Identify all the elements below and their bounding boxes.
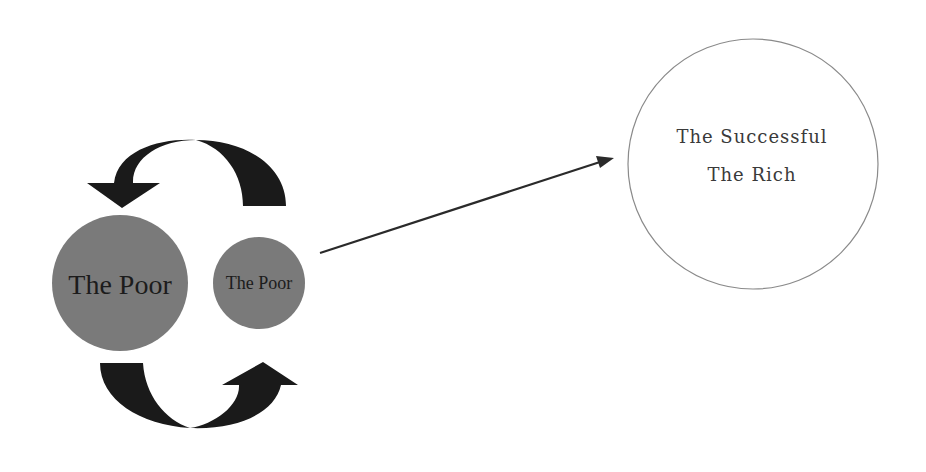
poor-large-label: The Poor [68,269,172,300]
bottom-cycle-arrow [100,362,298,428]
rich-label-line1: The Successful [676,126,827,147]
rich-label-line2: The Rich [708,164,797,185]
top-cycle-arrow [87,140,286,208]
poor-to-rich-diagram: The Poor The Poor The Successful The Ric… [0,0,926,472]
progress-arrowhead [596,156,614,168]
progress-arrow-line [320,162,600,253]
poor-small-label: The Poor [226,273,293,293]
